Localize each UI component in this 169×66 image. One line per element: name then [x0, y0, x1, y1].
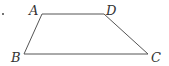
vertex-label-c: C: [151, 50, 161, 65]
bullet-dot: [2, 13, 4, 15]
trapezoid-diagram: A D B C: [0, 0, 169, 66]
vertex-label-b: B: [10, 50, 21, 65]
vertex-label-a: A: [28, 3, 38, 18]
trapezoid-abcd: [24, 14, 148, 54]
vertex-label-d: D: [105, 3, 117, 18]
